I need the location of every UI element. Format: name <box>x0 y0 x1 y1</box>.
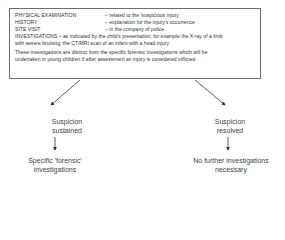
node-line: sustained <box>30 126 104 135</box>
node-line: No further investigations <box>183 156 279 165</box>
node-no-further-investigations: No further investigations necessary <box>183 156 279 174</box>
node-suspicion-sustained: Suspicion sustained <box>30 117 104 135</box>
node-line: Suspicion <box>198 117 262 126</box>
node-specific-forensic-investigations: Specific 'forensic' investigations <box>10 156 100 174</box>
node-line: resolved <box>198 126 262 135</box>
node-line: Suspicion <box>30 117 104 126</box>
node-line: Specific 'forensic' <box>10 156 100 165</box>
arrow-to-resolved <box>195 80 225 105</box>
arrow-to-sustained <box>51 80 80 105</box>
node-suspicion-resolved: Suspicion resolved <box>198 117 262 135</box>
node-line: necessary <box>183 165 279 174</box>
node-line: investigations <box>10 165 100 174</box>
